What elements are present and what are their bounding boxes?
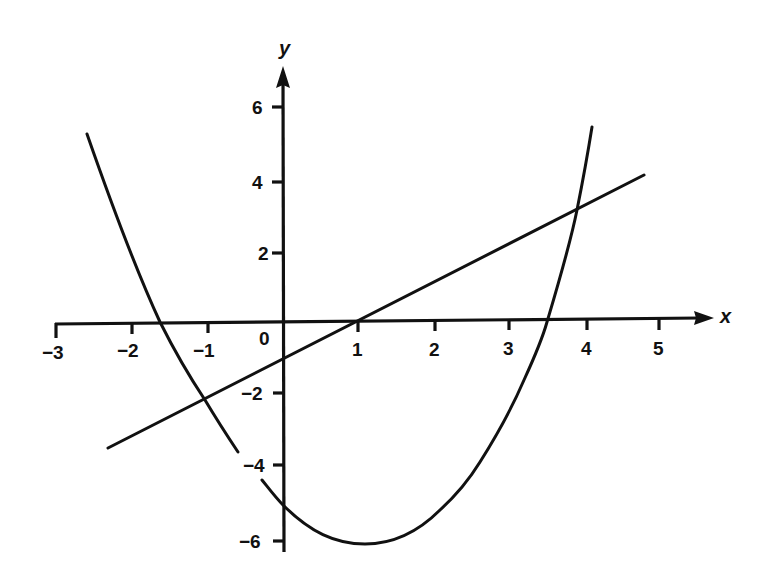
y-tick-label: 2 — [258, 243, 269, 264]
x-axis-arrow-icon — [694, 311, 714, 325]
y-tick-label: −2 — [241, 383, 263, 404]
y-tick-label: 6 — [252, 97, 263, 118]
x-tick-label: −1 — [193, 340, 215, 361]
x-tick-label: 4 — [581, 338, 592, 359]
x-axis-label: x — [719, 305, 732, 327]
x-tick-label: 1 — [352, 339, 363, 360]
chart: −3 −2 −1 1 2 3 4 5 0 x 6 4 2 −2 −4 −6 y — [0, 0, 760, 576]
x-tick-label: 3 — [503, 338, 514, 359]
origin-label: 0 — [259, 328, 270, 349]
parabola-left-branch — [87, 134, 238, 452]
parabola-lower-branch — [262, 127, 592, 544]
y-axis-arrow-icon — [276, 66, 290, 88]
straight-line-series — [108, 175, 644, 448]
x-axis: −3 −2 −1 1 2 3 4 5 0 x — [42, 305, 732, 363]
x-tick-label: 2 — [429, 339, 440, 360]
x-tick-label: 5 — [653, 338, 664, 359]
x-tick-label: −3 — [42, 342, 64, 363]
y-tick-label: 4 — [252, 172, 263, 193]
y-axis-label: y — [278, 37, 291, 59]
y-tick-label: −6 — [239, 531, 261, 552]
y-tick-label: −4 — [243, 455, 265, 476]
x-tick-label: −2 — [117, 340, 139, 361]
y-axis: 6 4 2 −2 −4 −6 y — [239, 37, 291, 552]
